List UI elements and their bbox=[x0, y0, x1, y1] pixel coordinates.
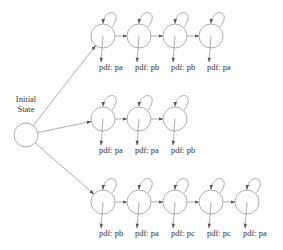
state-group: pdf: pa bbox=[235, 179, 267, 238]
chain-1: pdf: papdf: pbpdf: pbpdf: pa bbox=[33, 13, 231, 126]
pdf-label: pdf: pa bbox=[135, 145, 159, 155]
state-group: pdf: pb bbox=[91, 179, 127, 238]
pdf-label: pdf: pa bbox=[243, 228, 267, 238]
state-group: pdf: pa bbox=[91, 13, 127, 72]
pdf-label: pdf: pb bbox=[171, 145, 195, 155]
state-group: pdf: pb bbox=[127, 13, 163, 72]
initial-state-group: Initial State bbox=[14, 94, 38, 147]
initial-transition-edge bbox=[38, 121, 92, 132]
pdf-label: pdf: pa bbox=[99, 145, 123, 155]
initial-state-label-line1: Initial bbox=[16, 94, 37, 104]
pdf-label: pdf: pc bbox=[171, 228, 195, 238]
initial-state-label-line2: State bbox=[18, 104, 35, 114]
pdf-label: pdf: pb bbox=[99, 228, 123, 238]
initial-state-node bbox=[14, 123, 38, 147]
pdf-label: pdf: pa bbox=[207, 62, 231, 72]
chains-layer: pdf: papdf: pbpdf: pbpdf: papdf: papdf: … bbox=[33, 13, 267, 238]
state-group: pdf: pa bbox=[127, 96, 163, 155]
pdf-label: pdf: pc bbox=[207, 228, 231, 238]
initial-transition-edge bbox=[33, 45, 95, 125]
state-group: pdf: pa bbox=[199, 13, 231, 72]
state-group: pdf: pa bbox=[91, 96, 127, 155]
pdf-label: pdf: pb bbox=[171, 62, 195, 72]
state-group: pdf: pa bbox=[127, 179, 163, 238]
state-diagram: Initial State pdf: papdf: pbpdf: pbpdf: … bbox=[0, 0, 283, 250]
state-group: pdf: pc bbox=[163, 179, 199, 238]
chain-3: pdf: pbpdf: papdf: pcpdf: pcpdf: pa bbox=[35, 143, 267, 238]
pdf-label: pdf: pa bbox=[99, 62, 123, 72]
state-group: pdf: pb bbox=[163, 13, 199, 72]
state-group: pdf: pb bbox=[163, 96, 195, 155]
chain-2: pdf: papdf: papdf: pb bbox=[38, 96, 196, 155]
pdf-label: pdf: pb bbox=[135, 62, 159, 72]
pdf-label: pdf: pa bbox=[135, 228, 159, 238]
state-group: pdf: pc bbox=[199, 179, 235, 238]
initial-transition-edge bbox=[35, 143, 94, 194]
